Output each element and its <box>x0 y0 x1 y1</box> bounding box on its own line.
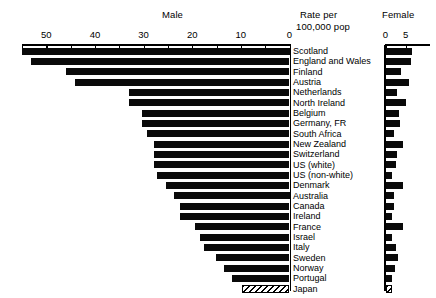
chart-row: Australia <box>0 191 436 201</box>
country-label: France <box>293 222 321 232</box>
chart-row: Denmark <box>0 180 436 190</box>
country-label: Netherlands <box>293 87 342 97</box>
male-tick-label: 50 <box>41 29 52 40</box>
chart-row: Norway <box>0 263 436 273</box>
male-bar <box>142 120 290 127</box>
female-bar <box>386 99 407 106</box>
rate-label-line1: Rate per <box>300 9 337 20</box>
country-label: Sweden <box>293 253 326 263</box>
male-bar <box>129 89 289 96</box>
female-bar <box>386 89 398 96</box>
chart-row: Japan <box>0 284 436 294</box>
chart-row: North Ireland <box>0 98 436 108</box>
chart-row: Switzerland <box>0 149 436 159</box>
male-tick-label: 30 <box>138 29 149 40</box>
chart-row: Scotland <box>0 46 436 56</box>
male-bar <box>31 58 289 65</box>
chart-row: Germany, FR <box>0 118 436 128</box>
chart-row: US (non-white) <box>0 170 436 180</box>
chart-row: Finland <box>0 67 436 77</box>
male-bar <box>242 285 290 293</box>
country-label: Japan <box>293 284 318 294</box>
female-bar <box>386 213 393 220</box>
country-label: Israel <box>293 232 315 242</box>
female-bar <box>386 79 410 86</box>
female-bar <box>386 172 393 179</box>
country-label: South Africa <box>293 129 342 139</box>
female-bar <box>386 265 396 272</box>
female-bar <box>386 275 393 282</box>
country-label: Denmark <box>293 180 330 190</box>
male-bar <box>180 203 290 210</box>
male-bar <box>157 172 289 179</box>
male-tick-label: 40 <box>90 29 101 40</box>
male-bar <box>22 48 290 55</box>
country-label: Germany, FR <box>293 118 346 128</box>
chart-row: Ireland <box>0 211 436 221</box>
female-bar <box>386 130 395 137</box>
country-label: US (non-white) <box>293 170 353 180</box>
chart-row: Belgium <box>0 108 436 118</box>
female-bar <box>386 234 392 241</box>
female-bar <box>386 58 412 65</box>
female-bar <box>386 141 404 148</box>
female-bar <box>386 285 392 293</box>
male-bar <box>154 161 290 168</box>
country-label: Finland <box>293 67 323 77</box>
female-bar <box>386 68 402 75</box>
male-bar <box>204 244 289 251</box>
female-tick-label: 5 <box>403 29 408 40</box>
female-bar <box>386 48 413 55</box>
female-bar <box>386 244 397 251</box>
country-label: Austria <box>293 77 321 87</box>
female-bar <box>386 120 401 127</box>
male-bar <box>166 182 290 189</box>
chart-row: Canada <box>0 201 436 211</box>
chart-row: Portugal <box>0 273 436 283</box>
country-label: Ireland <box>293 211 321 221</box>
male-bar <box>147 130 289 137</box>
chart-row: US (white) <box>0 160 436 170</box>
chart-row: Italy <box>0 242 436 252</box>
female-bar <box>386 223 404 230</box>
female-bar <box>386 203 395 210</box>
female-panel-title: Female <box>382 9 414 20</box>
country-label: Canada <box>293 201 325 211</box>
male-tick-label: 20 <box>187 29 198 40</box>
country-label: Belgium <box>293 108 326 118</box>
male-bar <box>216 254 289 261</box>
female-tick-label: 0 <box>383 29 388 40</box>
country-label: Scotland <box>293 46 328 56</box>
male-bar <box>66 68 290 75</box>
chart-row: England and Wales <box>0 56 436 66</box>
female-bar <box>386 161 397 168</box>
male-bar <box>129 99 289 106</box>
mortality-bar-chart: Male Rate per 100,000 pop Female 5040302… <box>0 0 436 298</box>
country-label: England and Wales <box>293 56 371 66</box>
female-bar <box>386 110 400 117</box>
male-bar <box>75 79 290 86</box>
male-bar <box>142 110 290 117</box>
country-label: New Zealand <box>293 139 346 149</box>
male-tick-label: 10 <box>236 29 247 40</box>
chart-row: South Africa <box>0 129 436 139</box>
chart-row: Israel <box>0 232 436 242</box>
country-label: Portugal <box>293 273 327 283</box>
country-label: Italy <box>293 242 310 252</box>
chart-row: Sweden <box>0 253 436 263</box>
female-bar <box>386 182 403 189</box>
chart-row: Austria <box>0 77 436 87</box>
female-bar <box>386 254 399 261</box>
country-label: Norway <box>293 263 324 273</box>
male-tick-label: 0 <box>287 29 292 40</box>
male-bar <box>200 234 290 241</box>
female-bar <box>386 151 398 158</box>
male-panel-title: Male <box>162 9 183 20</box>
male-bar <box>195 223 290 230</box>
country-label: Australia <box>293 191 328 201</box>
rate-label-line2: 100,000 pop <box>296 21 350 32</box>
country-label: US (white) <box>293 160 335 170</box>
male-bar <box>174 192 290 199</box>
male-bar <box>180 213 290 220</box>
female-bar <box>386 192 395 199</box>
